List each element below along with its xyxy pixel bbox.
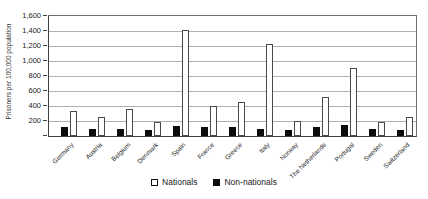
bar-nationals-greece — [238, 102, 245, 136]
y-tick-label: 1,000 — [7, 56, 41, 65]
gridline — [49, 31, 416, 32]
y-tick-label: 400 — [7, 101, 41, 110]
y-tick-mark — [43, 120, 47, 121]
y-tick-label: 200 — [7, 116, 41, 125]
gridline — [49, 61, 416, 62]
x-axis-label: Portugal — [333, 141, 355, 163]
x-axis-label: Spain — [170, 141, 187, 158]
y-tick-mark — [43, 75, 47, 76]
legend-item-nationals: Nationals — [151, 177, 197, 187]
bar-nationals-italy — [266, 44, 273, 136]
x-axis-label: Austria — [84, 141, 103, 160]
y-tick-label: 1,400 — [7, 26, 41, 35]
bar-non-nationals-austria — [89, 129, 96, 137]
gridline — [49, 106, 416, 107]
bar-nationals-denmark — [154, 122, 161, 136]
x-axis-label: Norway — [278, 141, 299, 162]
x-axis-label: Greece — [223, 141, 243, 161]
legend-swatch-nationals — [151, 179, 158, 186]
bar-nationals-france — [210, 106, 217, 136]
bar-non-nationals-germany — [61, 127, 68, 136]
y-tick-label: 1,600 — [7, 11, 41, 20]
bar-nationals-sweden — [378, 122, 385, 136]
x-axis-label: Switzerland — [382, 141, 411, 170]
y-tick-mark — [43, 45, 47, 46]
bar-non-nationals-portugal — [341, 125, 348, 136]
bar-non-nationals-norway — [285, 130, 292, 136]
bar-non-nationals-switzerland — [397, 130, 404, 136]
legend-swatch-non-nationals — [213, 179, 220, 186]
y-tick-mark — [43, 60, 47, 61]
bar-non-nationals-france — [201, 127, 208, 136]
bar-nationals-switzerland — [406, 117, 413, 136]
legend-item-non-nationals: Non-nationals — [213, 177, 276, 187]
plot-area — [48, 15, 417, 137]
x-axis-label: Germany — [51, 141, 75, 165]
gridline — [49, 91, 416, 92]
bar-non-nationals-denmark — [145, 130, 152, 136]
y-tick-label: 600 — [7, 86, 41, 95]
y-tick-mark — [43, 30, 47, 31]
gridline — [49, 46, 416, 47]
y-tick-mark — [43, 135, 47, 136]
x-axis-label: Italy — [258, 141, 271, 154]
y-tick-mark — [43, 90, 47, 91]
bar-non-nationals-sweden — [369, 129, 376, 137]
bar-nationals-norway — [294, 121, 301, 136]
bar-nationals-spain — [182, 30, 189, 136]
legend-label: Non-nationals — [224, 177, 276, 187]
bar-non-nationals-the-netherlands — [313, 127, 320, 136]
bar-nationals-germany — [70, 111, 77, 137]
y-tick-mark — [43, 15, 47, 16]
y-tick-label: 800 — [7, 71, 41, 80]
bar-nationals-portugal — [350, 68, 357, 136]
y-tick-mark — [43, 105, 47, 106]
y-tick-label: 1,200 — [7, 41, 41, 50]
bar-nationals-austria — [98, 117, 105, 136]
bar-non-nationals-belgium — [117, 129, 124, 136]
gridline — [49, 76, 416, 77]
legend-label: Nationals — [162, 177, 197, 187]
x-axis-label: Sweden — [361, 141, 383, 163]
bar-non-nationals-italy — [257, 129, 264, 137]
x-axis-label: Denmark — [135, 141, 159, 165]
x-axis-label: Belgium — [109, 141, 131, 163]
x-axis-label: France — [196, 141, 215, 160]
bar-chart-figure: Prisoners per 100,000 population Nationa… — [0, 0, 428, 199]
bar-non-nationals-spain — [173, 126, 180, 136]
bar-nationals-belgium — [126, 109, 133, 136]
bar-nationals-the-netherlands — [322, 97, 329, 136]
bar-non-nationals-greece — [229, 127, 236, 136]
legend: NationalsNon-nationals — [0, 177, 428, 187]
